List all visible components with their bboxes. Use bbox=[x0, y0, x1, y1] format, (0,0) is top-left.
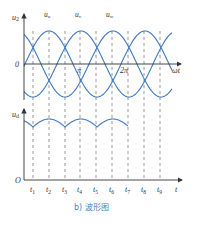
rectified-output-wave bbox=[24, 119, 128, 127]
u2-axis-label: u2 bbox=[12, 13, 19, 22]
pi-tick-label: π bbox=[77, 66, 82, 75]
time-tick-label-t2: t2 bbox=[46, 185, 51, 195]
curve-label-w: uw bbox=[106, 10, 114, 19]
time-tick-labels: t1t2t3t4t5t6t7t8t9 bbox=[30, 185, 162, 195]
figure-caption: b) 波形图 bbox=[74, 202, 109, 212]
origin-label-bottom: O bbox=[15, 176, 21, 185]
time-tick-label-t6: t6 bbox=[109, 185, 114, 195]
omega-t-label: ωt bbox=[172, 66, 181, 75]
curve-label-v: uv bbox=[75, 10, 82, 19]
time-tick-label-t1: t1 bbox=[30, 185, 35, 195]
time-tick-label-t5: t5 bbox=[93, 185, 98, 195]
time-tick-label-t9: t9 bbox=[157, 185, 162, 195]
time-guide-lines bbox=[33, 31, 160, 180]
time-tick-label-t8: t8 bbox=[141, 185, 146, 195]
two-pi-tick-label: 2π bbox=[120, 66, 129, 75]
ud-axis-label: ud bbox=[12, 110, 19, 119]
waveform-diagram: u2 0 π 2π ωt uu uv uw ud O t t1t2t3t4t5t… bbox=[0, 0, 197, 225]
curve-label-u: uu bbox=[44, 10, 51, 19]
origin-label-top: 0 bbox=[15, 60, 19, 69]
time-tick-label-t4: t4 bbox=[77, 185, 82, 195]
time-tick-label-t3: t3 bbox=[62, 185, 67, 195]
t-axis-label: t bbox=[175, 185, 178, 194]
time-tick-label-t7: t7 bbox=[125, 185, 130, 195]
ud-ripple-wave bbox=[24, 119, 128, 127]
